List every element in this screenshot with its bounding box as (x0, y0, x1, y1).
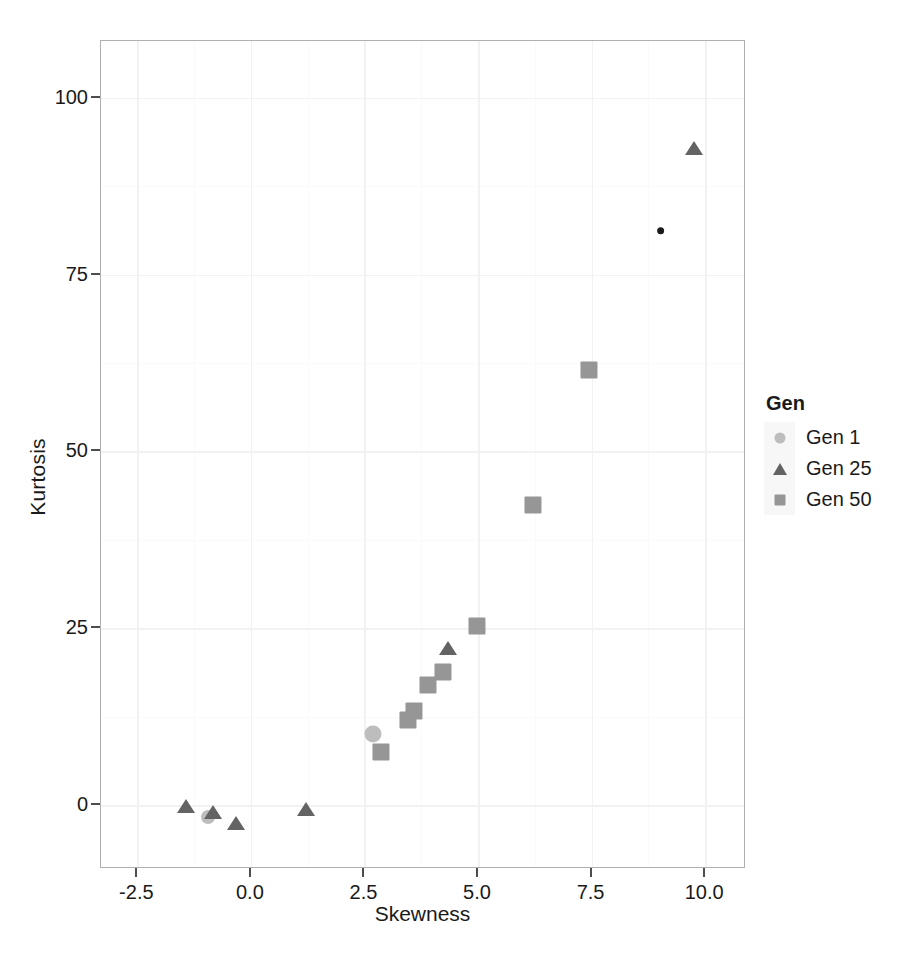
grid-minor-horizontal (101, 186, 744, 187)
y-tick-mark (91, 626, 100, 628)
data-point-triangle (297, 802, 315, 816)
y-tick-label: 75 (28, 262, 88, 285)
data-point-square (405, 703, 422, 720)
data-point-square (469, 618, 486, 635)
legend-title: Gen (766, 392, 900, 415)
data-point-triangle (204, 805, 222, 819)
legend-marker-triangle-icon (773, 463, 787, 475)
data-point-triangle (227, 816, 245, 830)
scatter-plot-figure: Kurtosis 0255075100 -2.50.02.55.07.510.0… (0, 0, 907, 954)
grid-major-horizontal (101, 451, 744, 453)
legend-entries: Gen 1Gen 25Gen 50 (764, 422, 900, 515)
grid-major-vertical (592, 41, 594, 867)
grid-major-horizontal (101, 628, 744, 630)
grid-minor-vertical (535, 41, 536, 867)
data-point-square (581, 362, 598, 379)
y-tick-mark (91, 449, 100, 451)
x-tick-mark (362, 868, 364, 877)
grid-minor-vertical (421, 41, 422, 867)
grid-minor-horizontal (101, 717, 744, 718)
data-point-square (525, 497, 542, 514)
grid-major-horizontal (101, 805, 744, 807)
legend-item-gen-1: Gen 1 (764, 422, 900, 453)
y-tick-label: 50 (28, 439, 88, 462)
data-point-circle (364, 725, 381, 742)
data-point-square (434, 664, 451, 681)
data-point-triangle (177, 799, 195, 813)
x-tick-label: 5.0 (463, 881, 491, 904)
grid-minor-vertical (308, 41, 309, 867)
y-tick-label: 100 (28, 85, 88, 108)
x-tick-label: 10.0 (685, 881, 724, 904)
x-axis-title: Skewness (100, 902, 745, 926)
grid-major-vertical (705, 41, 707, 867)
grid-major-horizontal (101, 275, 744, 277)
data-point-triangle (685, 141, 703, 155)
legend-key (764, 484, 795, 515)
y-axis-ticks: 0255075100 (22, 0, 88, 954)
legend: Gen Gen 1Gen 25Gen 50 (764, 392, 900, 515)
grid-minor-vertical (648, 41, 649, 867)
x-tick-mark (703, 868, 705, 877)
y-tick-label: 0 (28, 793, 88, 816)
y-tick-label: 25 (28, 616, 88, 639)
legend-marker-square-icon (774, 494, 785, 505)
x-tick-label: 7.5 (577, 881, 605, 904)
legend-label: Gen 50 (806, 488, 872, 511)
x-tick-label: 2.5 (350, 881, 378, 904)
legend-label: Gen 1 (806, 426, 860, 449)
legend-item-gen-50: Gen 50 (764, 484, 900, 515)
plot-panel (100, 40, 745, 868)
x-tick-mark (135, 868, 137, 877)
legend-key (764, 453, 795, 484)
data-point-triangle (439, 641, 457, 655)
legend-marker-circle-icon (774, 432, 785, 443)
x-tick-mark (249, 868, 251, 877)
grid-minor-vertical (194, 41, 195, 867)
y-tick-mark (91, 96, 100, 98)
grid-major-vertical (137, 41, 139, 867)
data-point-square (372, 744, 389, 761)
grid-minor-horizontal (101, 363, 744, 364)
grid-major-vertical (364, 41, 366, 867)
x-tick-mark (590, 868, 592, 877)
x-tick-mark (476, 868, 478, 877)
grid-minor-horizontal (101, 540, 744, 541)
legend-key (764, 422, 795, 453)
y-tick-mark (91, 803, 100, 805)
grid-major-vertical (478, 41, 480, 867)
data-point-circle (657, 227, 665, 235)
y-tick-mark (91, 273, 100, 275)
legend-item-gen-25: Gen 25 (764, 453, 900, 484)
grid-major-vertical (251, 41, 253, 867)
x-tick-label: 0.0 (236, 881, 264, 904)
x-tick-label: -2.5 (119, 881, 153, 904)
legend-label: Gen 25 (806, 457, 872, 480)
grid-major-horizontal (101, 98, 744, 100)
